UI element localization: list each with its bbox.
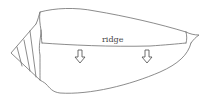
shell-diagram: ridge xyxy=(0,0,206,103)
arrow-down-icon xyxy=(142,50,152,63)
shell-body xyxy=(36,8,199,93)
shell-outline xyxy=(0,0,206,103)
shell-spire xyxy=(11,24,40,80)
arrow-down-icon xyxy=(75,50,85,63)
ridge-label: ridge xyxy=(102,36,123,44)
